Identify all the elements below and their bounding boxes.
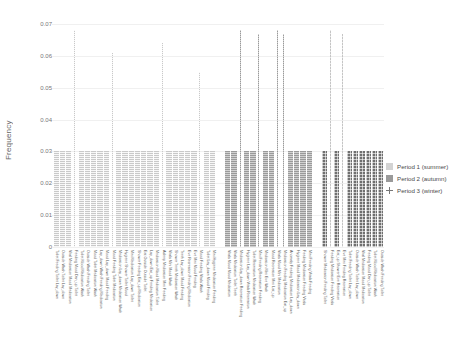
x-axis-tick-label: Outside Wash Toilet Lay_down bbox=[61, 250, 65, 299]
x-axis-tick-label: Toilet Lay_down Mood Feeding bbox=[205, 250, 209, 300]
x-axis-tick-label: Feeding Mood Dan_up Toilet bbox=[366, 250, 370, 296]
bar bbox=[60, 151, 65, 247]
bar bbox=[300, 151, 305, 247]
y-axis-tick-label: 0 bbox=[18, 244, 52, 250]
x-axis-gap bbox=[312, 248, 321, 354]
bar bbox=[277, 30, 278, 247]
x-axis-tick-label: Mood Feeding Vitals Wash bbox=[198, 250, 202, 293]
x-axis-tick-label: Mood Toilet Medication Wash bbox=[92, 250, 96, 297]
bar-group-gap bbox=[312, 24, 321, 247]
x-axis-tick-label: Lay_down Wash Feeding Medication bbox=[98, 250, 102, 309]
bar bbox=[191, 151, 196, 247]
x-axis-tick-label: Mini Feeding Vitals Feeding bbox=[307, 250, 311, 294]
x-axis-tick-label: Shower Medication Feeding Toilet bbox=[323, 250, 327, 304]
bar bbox=[225, 151, 230, 247]
table-row bbox=[378, 24, 384, 247]
y-axis-tick-label: 0.02 bbox=[18, 180, 52, 186]
legend-marker-square-icon bbox=[386, 175, 393, 182]
chart-legend: Period 1 (summer) Period 2 (autumn) Peri… bbox=[386, 160, 476, 196]
bar bbox=[210, 151, 215, 247]
x-axis-tick-label: Vitals Mood Mini Medication bbox=[276, 250, 280, 295]
x-axis-tick-label: Teeth Lay_down Mood Feeding bbox=[180, 250, 184, 300]
bar bbox=[199, 72, 200, 247]
bar bbox=[135, 151, 140, 247]
legend-label: Period 2 (autumn) bbox=[397, 175, 447, 182]
bar bbox=[283, 34, 284, 247]
bar bbox=[91, 151, 96, 247]
bar bbox=[342, 34, 343, 247]
legend-item-period-1[interactable]: Period 1 (summer) bbox=[386, 160, 476, 172]
bar bbox=[162, 43, 163, 247]
bar bbox=[330, 30, 331, 247]
legend-label: Period 3 (winter) bbox=[397, 187, 442, 194]
bar bbox=[366, 151, 371, 247]
y-axis-tick-label: 0.04 bbox=[18, 117, 52, 123]
bar bbox=[334, 151, 339, 247]
bar bbox=[54, 151, 59, 247]
bar bbox=[294, 151, 299, 247]
bar bbox=[66, 151, 71, 247]
bar bbox=[231, 151, 236, 247]
bar bbox=[141, 151, 146, 247]
x-axis-tick: Outside Wash Feeding Toilet bbox=[378, 248, 384, 354]
bar bbox=[244, 151, 249, 247]
x-axis-tick-label: Eve Mini Feeding Recreation bbox=[341, 250, 345, 296]
chart-root: Frequency 0.070.060.050.040.030.020.010 … bbox=[0, 0, 476, 356]
y-axis-ticks: 0.070.060.050.040.030.020.010 bbox=[0, 0, 52, 356]
bar-group-gap bbox=[216, 24, 225, 247]
bar bbox=[378, 151, 383, 247]
bar bbox=[85, 151, 90, 247]
legend-item-period-3[interactable]: Period 3 (winter) bbox=[386, 184, 476, 196]
x-axis-tick-label: Eat_up Shower Eve Recreation bbox=[335, 250, 339, 300]
bar bbox=[116, 151, 121, 247]
x-axis-tick-label: Outside Wash Feeding Toilet bbox=[379, 250, 383, 296]
legend-label: Period 1 (summer) bbox=[397, 163, 448, 170]
bar bbox=[147, 151, 152, 247]
x-axis-tick-label: Toilet Feeding Toilet Lay_down bbox=[348, 250, 352, 299]
y-axis-tick-label: 0.01 bbox=[18, 212, 52, 218]
x-axis-tick-label: Mood Recreation Mini List_up bbox=[270, 250, 274, 298]
x-axis-tick-label: Vital Medication Mood Medication bbox=[360, 250, 364, 304]
x-axis-tick-label: Medication Lay_down Medication Wash bbox=[117, 250, 121, 313]
bar bbox=[250, 151, 255, 247]
bar bbox=[112, 53, 113, 247]
x-axis-tick-label: Medication Lay_down Recreation Feeding bbox=[239, 250, 243, 317]
bar bbox=[258, 34, 259, 247]
bar bbox=[204, 151, 209, 247]
x-axis-tick-label: Mood Feeding Toilet Medication bbox=[111, 250, 115, 301]
bar bbox=[185, 151, 190, 247]
x-axis-tick-label: Vitals Mood Mood Medication bbox=[226, 250, 230, 297]
x-axis-tick-label: Mini Feeding Recreation Feeding bbox=[257, 250, 261, 303]
x-axis-tick-label: Vital Medication Mood Medication bbox=[67, 250, 71, 304]
plot-area: Frequency 0.070.060.050.040.030.020.010 … bbox=[0, 0, 476, 356]
y-axis-tick-label: 0.07 bbox=[18, 21, 52, 27]
x-axis-tick-label: Feeding Mood Dan_up Toilet bbox=[73, 250, 77, 296]
x-axis-tick-label: Mood Lay_down Mood Feeding bbox=[104, 250, 108, 300]
bar bbox=[322, 151, 327, 247]
x-axis-tick-label: Medication Mini Eve Wash bbox=[264, 250, 268, 292]
legend-item-period-2[interactable]: Period 2 (autumn) bbox=[386, 172, 476, 184]
bar bbox=[307, 151, 312, 247]
x-axis-labels: Toilet Feeding Toilet Lay_downOutside Wa… bbox=[53, 248, 384, 354]
bar bbox=[347, 151, 352, 247]
bar bbox=[240, 30, 241, 247]
y-axis-tick-label: 0.06 bbox=[18, 53, 52, 59]
x-axis-tick-label: Toilet Recreation Medication Wash bbox=[251, 250, 255, 305]
x-axis-tick-label: Eve Mini Mood Feeding bbox=[192, 250, 196, 288]
x-axis-tick-label: Anomaly Feeding Medication Lay_down bbox=[289, 250, 293, 314]
y-axis-tick-label: 0.05 bbox=[18, 85, 52, 91]
y-axis-tick-label: 0.03 bbox=[18, 148, 52, 154]
bar bbox=[166, 151, 171, 247]
x-axis-tick-label: Medication Feeding Medication Eat_up bbox=[282, 250, 286, 312]
x-axis-tick-label: Toilet Feeding Toilet Lay_down bbox=[54, 250, 58, 299]
x-axis-tick-label: Outside Wash Toilet Lay_down bbox=[354, 250, 358, 299]
bars-container bbox=[53, 24, 384, 247]
bar bbox=[173, 151, 178, 247]
x-axis-tick-label: Vitals Mini Mood Wash bbox=[167, 250, 171, 286]
x-axis-tick-label: Feeding Medication Feeding Vitals bbox=[329, 250, 333, 305]
x-axis-tick-label: Eat Outside Outside Toilet bbox=[142, 250, 146, 291]
x-axis-tick-label: Shower Teeth Medication Wash bbox=[173, 250, 177, 300]
bar bbox=[74, 30, 75, 247]
x-axis-tick-label: Asleep Medication Mini Feeding bbox=[161, 250, 165, 301]
bar bbox=[97, 151, 102, 247]
